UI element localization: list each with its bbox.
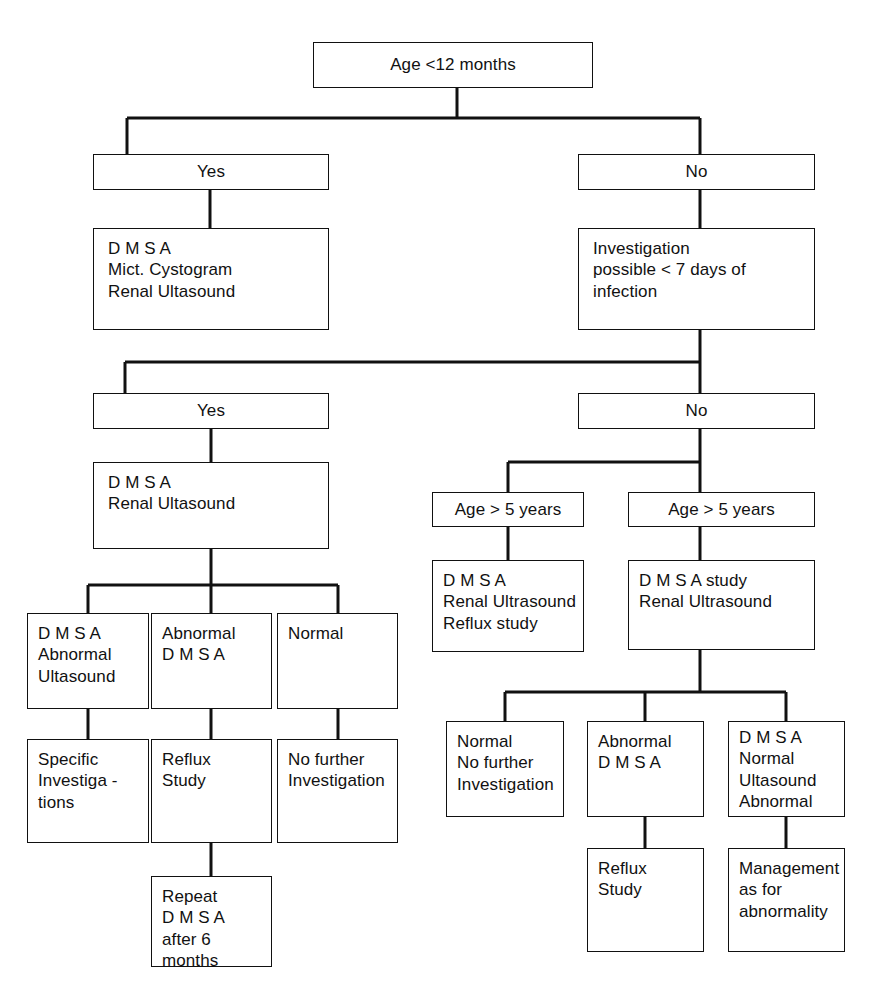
node-text: Reflux Study xyxy=(598,858,647,901)
flowchart-canvas: Age <12 months Yes No D M S A Mict. Cyst… xyxy=(0,0,872,1003)
node-text: Investigation possible < 7 days of infec… xyxy=(593,238,814,302)
node-right-outcome-normal-no-further[interactable]: Normal No further Investigation xyxy=(446,721,564,817)
node-right-outcome-dmsa-normal-ultrasound-abnormal[interactable]: D M S A Normal Ultasound Abnormal xyxy=(728,721,845,817)
node-right-outcome-abnormal-dmsa[interactable]: Abnormal D M S A xyxy=(587,721,704,817)
node-text: Abnormal D M S A xyxy=(598,731,672,774)
node-text: Normal xyxy=(288,623,343,644)
node-age-over-5-right[interactable]: Age > 5 years xyxy=(628,492,815,527)
node-left-outcome-abnormal-dmsa[interactable]: Abnormal D M S A xyxy=(151,613,272,709)
node-text: Age > 5 years xyxy=(668,499,775,520)
node-right-action-reflux-study[interactable]: Reflux Study xyxy=(587,848,704,952)
node-text: Normal No further Investigation xyxy=(457,731,554,795)
node-text: Yes xyxy=(197,161,225,182)
node-text: Abnormal D M S A xyxy=(162,623,236,666)
node-text: D M S A study Renal Ultrasound xyxy=(639,570,772,613)
node-age-over-5-left[interactable]: Age > 5 years xyxy=(432,492,584,527)
node-early-tests[interactable]: D M S A Renal Ultasound xyxy=(93,462,329,549)
node-left-outcome-normal[interactable]: Normal xyxy=(277,613,398,709)
node-text: Reflux Study xyxy=(162,749,211,792)
node-text: D M S A Mict. Cystogram Renal Ultasound xyxy=(108,238,235,302)
node-text: D M S A Renal Ultrasound Reflux study xyxy=(443,570,576,634)
node-branch2-yes[interactable]: Yes xyxy=(93,393,329,429)
node-branch1-yes[interactable]: Yes xyxy=(93,154,329,190)
node-branch2-no[interactable]: No xyxy=(578,393,815,429)
node-left-action-specific-investigations[interactable]: Specific Investiga - tions xyxy=(27,739,149,843)
node-text: Specific Investiga - tions xyxy=(38,749,118,813)
node-branch1-no[interactable]: No xyxy=(578,154,815,190)
node-text: D M S A Normal Ultasound Abnormal xyxy=(739,727,816,813)
node-root-age-under-12-months[interactable]: Age <12 months xyxy=(313,42,593,88)
node-repeat-dmsa-after-6-months[interactable]: Repeat D M S A after 6 months xyxy=(151,876,272,967)
node-text: D M S A Abnormal Ultasound xyxy=(38,623,115,687)
node-left-action-no-further-investigation[interactable]: No further Investigation xyxy=(277,739,398,843)
node-text: D M S A Renal Ultasound xyxy=(108,472,235,515)
node-text: Management as for abnormality xyxy=(739,858,839,922)
node-investigation-window[interactable]: Investigation possible < 7 days of infec… xyxy=(578,228,815,330)
node-text: Age <12 months xyxy=(390,54,516,75)
node-text: Yes xyxy=(197,400,225,421)
node-right-action-management-as-for-abnormality[interactable]: Management as for abnormality xyxy=(728,848,845,952)
node-text: No xyxy=(686,400,708,421)
node-left-action-reflux-study[interactable]: Reflux Study xyxy=(151,739,272,843)
node-left-outcome-dmsa-abnormal-ultrasound[interactable]: D M S A Abnormal Ultasound xyxy=(27,613,149,709)
node-age-right-tests[interactable]: D M S A study Renal Ultrasound xyxy=(628,560,815,650)
node-text: Age > 5 years xyxy=(455,499,562,520)
node-text: No xyxy=(686,161,708,182)
node-age-left-tests[interactable]: D M S A Renal Ultrasound Reflux study xyxy=(432,560,584,652)
node-text: Repeat D M S A after 6 months xyxy=(162,886,271,967)
node-text: No further Investigation xyxy=(288,749,385,792)
node-infant-tests[interactable]: D M S A Mict. Cystogram Renal Ultasound xyxy=(93,228,329,330)
